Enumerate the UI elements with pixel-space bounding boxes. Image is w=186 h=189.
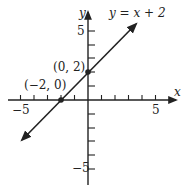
x-axis-label: x [174,85,181,99]
point-0-2 [85,69,91,75]
y-tick-label-5: 5 [77,24,85,38]
point-label-neg2-0: (−2, 0) [24,78,66,92]
point-neg2-0 [58,97,64,103]
equation-label: y = x + 2 [108,6,166,20]
point-label-0-2: (0, 2) [53,60,85,74]
y-axis-label: y [78,6,86,20]
graph: y x y = x + 2 5 −5 −5 5 (0, 2) (−2, 0) [0,0,186,189]
x-tick-label-neg5: −5 [12,103,30,117]
x-tick-label-5: 5 [152,103,160,117]
y-tick-label-neg5: −5 [72,161,90,175]
